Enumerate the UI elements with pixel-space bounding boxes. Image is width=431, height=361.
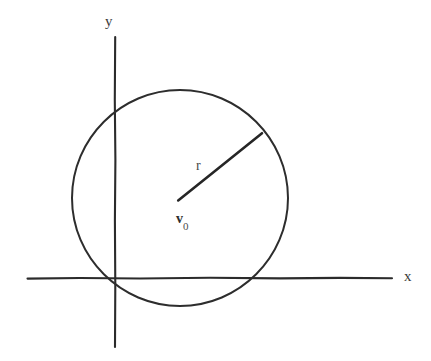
radius-label: r [196, 159, 201, 173]
vector-symbol: v [176, 211, 183, 226]
figure-canvas: y x r v0 [0, 0, 431, 361]
diagram-svg [0, 0, 431, 361]
radius-segment [178, 133, 262, 200]
x-axis-line [28, 278, 393, 279]
y-axis-line [115, 37, 116, 347]
y-axis-label: y [105, 14, 113, 29]
center-vector-label: v0 [176, 212, 189, 229]
vector-subscript: 0 [183, 220, 189, 232]
x-axis-label: x [404, 269, 412, 284]
